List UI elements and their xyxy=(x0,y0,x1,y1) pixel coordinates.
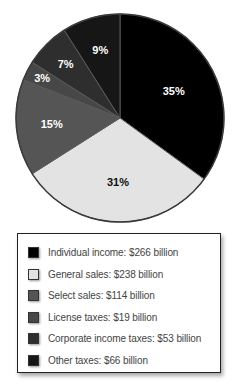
pie-percent-label: 31% xyxy=(107,176,129,188)
pie-chart: 35%31%15%3%7%9% xyxy=(0,0,243,232)
legend-item-select-sales: Select sales: $114 billion xyxy=(28,285,220,307)
legend-item-corporate-income-taxes: Corporate income taxes: $53 billion xyxy=(28,328,220,350)
pie-percent-label: 35% xyxy=(163,85,185,97)
pie-percent-label: 3% xyxy=(34,72,50,84)
pie-percent-label: 7% xyxy=(58,58,74,70)
legend-label: Select sales: $114 billion xyxy=(48,290,155,301)
pie-percent-label: 9% xyxy=(92,44,108,56)
legend-label: General sales: $238 billion xyxy=(48,269,163,280)
legend-label: License taxes: $19 billion xyxy=(48,312,157,323)
legend-swatch xyxy=(28,247,39,258)
legend-label: Other taxes: $66 billion xyxy=(48,355,148,366)
legend-swatch xyxy=(28,333,39,344)
legend-item-license-taxes: License taxes: $19 billion xyxy=(28,307,220,329)
legend-swatch xyxy=(28,312,39,323)
legend-swatch xyxy=(28,269,39,280)
pie-percent-label: 15% xyxy=(41,118,63,130)
legend-item-individual-income: Individual income: $266 billion xyxy=(28,242,220,264)
legend: Individual income: $266 billion General … xyxy=(17,233,221,373)
legend-label: Individual income: $266 billion xyxy=(48,247,178,258)
legend-item-general-sales: General sales: $238 billion xyxy=(28,264,220,286)
legend-swatch xyxy=(28,290,39,301)
legend-swatch xyxy=(28,355,39,366)
legend-item-other-taxes: Other taxes: $66 billion xyxy=(28,350,220,372)
legend-label: Corporate income taxes: $53 billion xyxy=(48,333,201,344)
